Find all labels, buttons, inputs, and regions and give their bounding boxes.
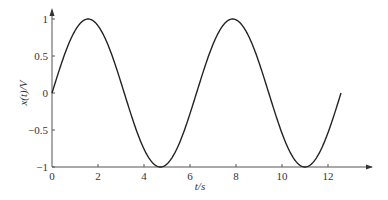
y-tick-label: −1 <box>36 161 48 173</box>
axes: −1−0.500.51024681012 <box>28 8 373 182</box>
y-tick-label: −0.5 <box>28 124 48 136</box>
x-tick-label: 4 <box>141 170 147 182</box>
y-axis-label: x(t)/V <box>17 79 30 106</box>
x-tick-label: 10 <box>277 170 289 182</box>
y-tick-label: 1 <box>43 13 49 25</box>
y-tick-label: 0.5 <box>34 50 48 62</box>
x-tick-label: 8 <box>233 170 239 182</box>
x-tick-label: 6 <box>187 170 193 182</box>
x-tick-label: 0 <box>49 170 55 182</box>
x-axis-label: t/s <box>195 180 205 192</box>
x-tick-label: 2 <box>95 170 101 182</box>
signal-curve <box>52 19 341 167</box>
chart: −1−0.500.51024681012 x(t)/V t/s <box>0 0 388 200</box>
x-tick-label: 12 <box>323 170 334 182</box>
y-tick-label: 0 <box>43 87 49 99</box>
